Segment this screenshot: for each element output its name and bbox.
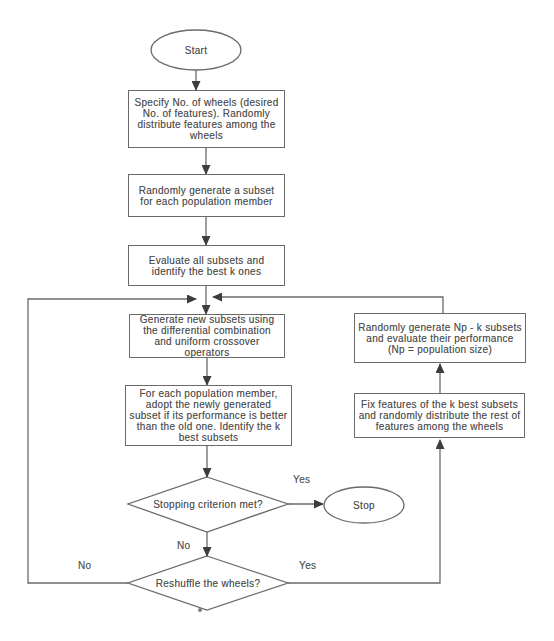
node-start: Start (151, 30, 241, 70)
node-specify-wheels: Specify No. of wheels (desired No. of fe… (128, 90, 285, 148)
node-generate-new-subsets: Generate new subsets using the different… (129, 314, 285, 358)
node-stop: Stop (324, 488, 404, 523)
node-stopping-criterion: Stopping criterion met? (128, 477, 288, 532)
node-evaluate-subsets: Evaluate all subsets and identify the be… (128, 245, 285, 286)
flowchart-figure: Start Stop Specify No. of wheels (desire… (0, 0, 554, 641)
label-reshuffle-no: No (78, 560, 92, 571)
label-stopping-yes: Yes (293, 474, 311, 485)
node-generate-population-subsets: Randomly generate a subset for each popu… (128, 174, 285, 217)
node-adopt-subsets: For each population member, adopt the ne… (125, 385, 292, 446)
node-fix-features: Fix features of the k best subsets and r… (354, 393, 525, 438)
label-reshuffle-yes: Yes (299, 560, 317, 571)
node-random-np-k: Randomly generate Np - k subsets and eva… (354, 313, 526, 363)
label-stopping-no: No (177, 540, 191, 551)
node-reshuffle-wheels: Reshuffle the wheels? (128, 556, 288, 610)
edge-npk-loop-to-junction (213, 297, 443, 313)
